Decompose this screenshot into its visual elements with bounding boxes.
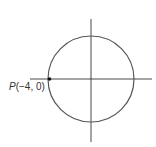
diagram-canvas — [0, 0, 156, 147]
circle-diagram: P(−4, 0) — [0, 0, 156, 147]
point-p-label: P(−4, 0) — [9, 82, 45, 92]
point-name: P — [9, 81, 16, 92]
point-p-marker — [48, 77, 52, 81]
point-coordinates: (−4, 0) — [16, 81, 45, 92]
